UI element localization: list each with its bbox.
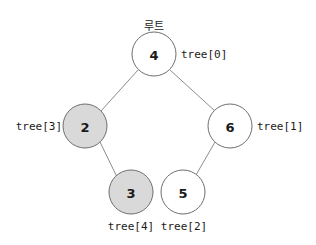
edge-group	[100, 70, 215, 177]
node-value-tree2: 5	[178, 186, 187, 201]
index-label-tree4: tree[4]	[108, 220, 154, 233]
edge-root-to-left	[101, 70, 138, 111]
tree-diagram-canvas: 루트 4 tree[0] 2 tree[3] 6 tree[1] 3 tree[…	[0, 0, 316, 245]
index-label-tree0: tree[0]	[181, 48, 227, 61]
node-value-tree1: 6	[225, 120, 234, 135]
node-value-tree3: 2	[80, 120, 89, 135]
root-caption-label: 루트	[144, 20, 164, 33]
edge-root-to-right	[170, 70, 215, 111]
node-value-tree4: 3	[126, 186, 135, 201]
edge-right-to-child	[196, 142, 215, 175]
binary-tree-diagram: 루트 4 tree[0] 2 tree[3] 6 tree[1] 3 tree[…	[0, 0, 316, 245]
index-label-tree2: tree[2]	[161, 220, 207, 233]
index-label-tree1: tree[1]	[257, 120, 303, 133]
node-value-tree0: 4	[149, 48, 158, 63]
tree-node-0[interactable]: 4 tree[0]	[132, 32, 227, 76]
tree-node-1[interactable]: 6 tree[1]	[208, 104, 303, 148]
index-label-tree3: tree[3]	[16, 120, 62, 133]
tree-node-3[interactable]: 2 tree[3]	[16, 104, 107, 148]
tree-node-2[interactable]: 5 tree[2]	[161, 170, 207, 233]
edge-left-to-child	[100, 142, 117, 177]
tree-node-4[interactable]: 3 tree[4]	[108, 170, 154, 233]
